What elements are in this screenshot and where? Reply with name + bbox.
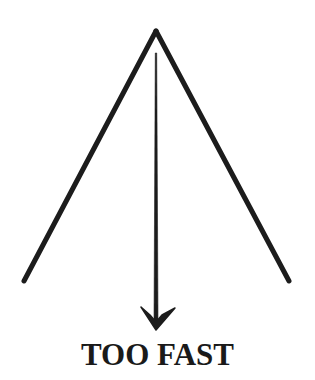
too-fast-diagram <box>0 0 315 380</box>
figure-caption: TOO FAST <box>0 339 315 371</box>
right-leg <box>156 31 289 281</box>
arrow-down-icon <box>141 53 175 330</box>
left-leg <box>24 31 156 281</box>
arrow-shaft <box>154 53 158 322</box>
